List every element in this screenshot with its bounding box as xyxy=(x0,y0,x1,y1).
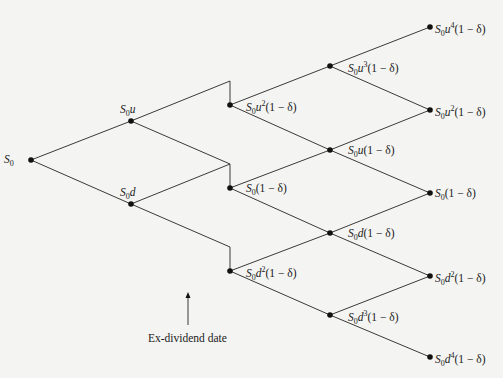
tree-node-dot xyxy=(427,354,433,360)
binomial-tree-diagram: S0S0uS0dS0u2(1 − δ)S0(1 − δ)S0d2(1 − δ)S… xyxy=(0,0,503,378)
tree-edge xyxy=(131,81,230,121)
node-label: S0(1 − δ) xyxy=(246,183,287,197)
tree-node-dot xyxy=(327,63,333,69)
node-label: S0d2(1 − δ) xyxy=(246,266,297,282)
tree-node-dot xyxy=(427,273,433,279)
node-label: S0d3(1 − δ) xyxy=(348,310,399,326)
tree-node-dot xyxy=(227,102,233,108)
node-label: S0u(1 − δ) xyxy=(348,145,395,159)
node-label: S0(1 − δ) xyxy=(435,188,476,202)
tree-edge xyxy=(131,204,230,247)
tree-edge xyxy=(131,121,230,164)
tree-node-dot xyxy=(427,190,433,196)
tree-node-dot xyxy=(227,268,233,274)
tree-node-dot xyxy=(128,201,134,207)
tree-node-dot xyxy=(427,107,433,113)
tree-node-dot xyxy=(427,24,433,30)
ex-dividend-label: Ex-dividend date xyxy=(148,332,227,344)
tree-edge xyxy=(131,164,230,204)
node-label: S0u3(1 − δ) xyxy=(348,61,399,77)
node-label: S0u2(1 − δ) xyxy=(435,105,486,121)
node-label: S0d(1 − δ) xyxy=(348,228,395,242)
tree-node-dot xyxy=(227,185,233,191)
tree-node-dot xyxy=(28,157,34,163)
ex-dividend-arrow-icon xyxy=(186,292,191,325)
node-label: S0 xyxy=(4,154,14,168)
node-label: S0d2(1 − δ) xyxy=(435,271,486,287)
node-label: S0d4(1 − δ) xyxy=(435,352,486,368)
tree-edge xyxy=(31,121,131,160)
tree-node-dot xyxy=(327,312,333,318)
tree-edge xyxy=(31,160,131,204)
node-label: S0u2(1 − δ) xyxy=(246,100,297,116)
node-label: S0d xyxy=(120,187,136,201)
node-label: S0u4(1 − δ) xyxy=(435,22,486,38)
node-label: S0u xyxy=(120,104,136,118)
tree-node-dot xyxy=(327,230,333,236)
tree-node-dot xyxy=(128,118,134,124)
tree-node-dot xyxy=(327,147,333,153)
